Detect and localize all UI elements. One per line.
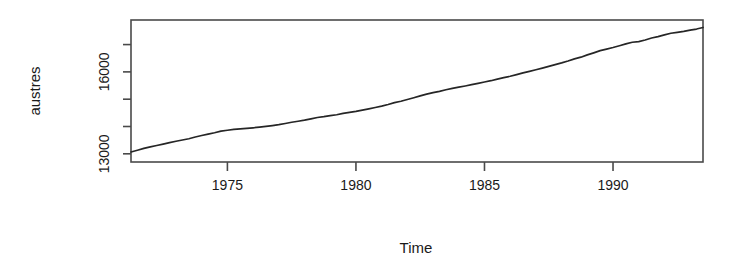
y-axis-title: austres [26,66,43,115]
austres-line-chart: 1600013000 1975198019851990 austres Time [0,0,742,273]
x-tick-label-1990: 1990 [597,177,628,193]
y-tick-label-16000: 16000 [96,52,112,91]
x-axis-title: Time [400,239,433,256]
x-tick-label-1985: 1985 [469,177,500,193]
y-tick-label-13000: 13000 [96,134,112,173]
chart-plot-area: 1600013000 1975198019851990 austres Time [0,0,742,273]
x-tick-label-1975: 1975 [212,177,243,193]
x-tick-label-1980: 1980 [340,177,371,193]
